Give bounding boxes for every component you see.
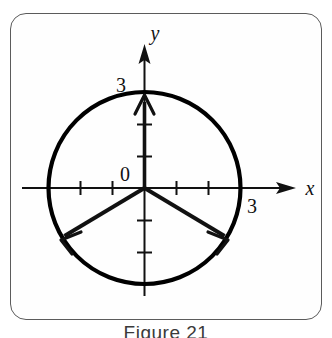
x-axis-max-label: 3 [247,195,257,217]
x-axis-name-label: x [305,177,315,199]
y-axis-name-label: y [149,22,160,45]
vector-330-degrees [145,188,229,254]
vector-210-degrees [61,188,145,254]
origin-label: 0 [120,163,130,185]
figure-container: 3 3 0 x y Figure 21 [0,0,332,338]
figure-caption: Figure 21 [0,322,332,338]
coordinate-plot: 3 3 0 x y [0,0,332,338]
vector-90-degrees [135,95,154,188]
y-axis-max-label: 3 [116,74,126,96]
